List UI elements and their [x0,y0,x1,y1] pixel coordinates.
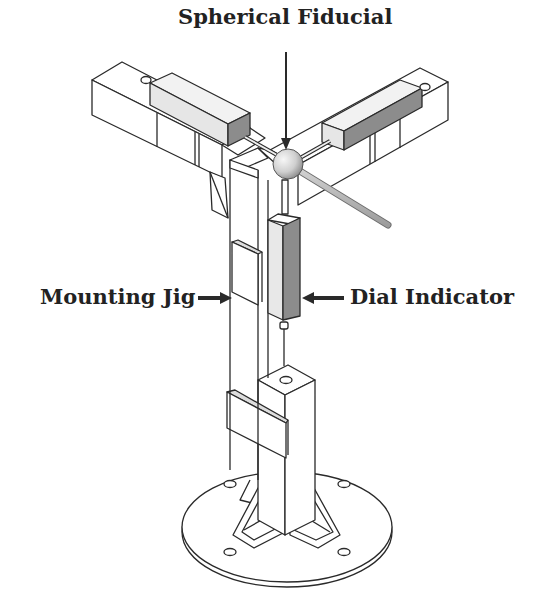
label-spherical-fiducial: Spherical Fiducial [178,4,392,29]
label-dial-indicator: Dial Indicator [350,284,514,309]
label-mounting-jig: Mounting Jig [40,284,195,309]
dial-indicator-body [268,214,300,366]
spherical-fiducial [273,149,303,179]
dial-arrowhead-icon [302,292,314,304]
jig-clamp-plate [232,240,262,305]
dial-indicator-plunger [282,180,288,214]
